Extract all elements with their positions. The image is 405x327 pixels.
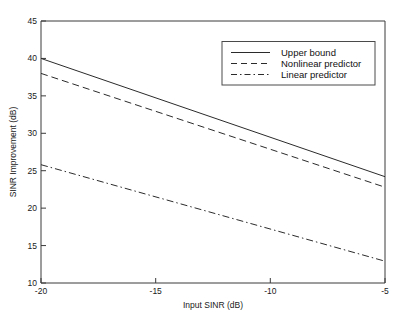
y-axis-tick-labels: 45 40 35 30 25 20 15 10 [28,16,38,288]
y-tick-label-25: 25 [28,166,38,176]
chart-legend[interactable]: Upper bound Nonlinear predictor Linear p… [222,42,375,86]
legend-label-nonlinear-predictor: Nonlinear predictor [281,58,361,69]
x-axis-ticks [41,278,385,283]
legend-label-upper-bound: Upper bound [281,47,336,58]
y-tick-label-40: 40 [28,53,38,63]
chart-plot: 45 40 35 30 25 20 15 10 -20 -15 -10 -5 I… [0,0,405,327]
x-tick-label-minus15: -15 [150,286,163,296]
x-tick-label-minus10: -10 [264,286,277,296]
series-line-linear-predictor [41,165,385,262]
y-tick-label-45: 45 [28,16,38,26]
figure-canvas: 45 40 35 30 25 20 15 10 -20 -15 -10 -5 I… [0,0,405,327]
y-tick-label-15: 15 [28,241,38,251]
series-group [41,58,385,261]
y-tick-label-30: 30 [28,128,38,138]
y-tick-label-20: 20 [28,203,38,213]
legend-label-linear-predictor: Linear predictor [281,69,347,80]
x-tick-label-minus20: -20 [35,286,48,296]
x-axis-tick-labels: -20 -15 -10 -5 [35,286,389,296]
x-axis-title: Input SINR (dB) [183,300,243,310]
y-axis-title: SINR Improvement (dB) [8,106,18,197]
x-tick-label-minus5: -5 [381,286,389,296]
series-line-nonlinear-predictor [41,73,385,187]
y-tick-label-35: 35 [28,91,38,101]
